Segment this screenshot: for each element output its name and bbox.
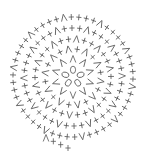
single-crochet-icon bbox=[71, 123, 76, 129]
single-crochet-icon bbox=[19, 107, 27, 115]
single-crochet-icon bbox=[12, 57, 19, 64]
increase-icon bbox=[58, 87, 67, 96]
single-crochet-icon bbox=[63, 122, 69, 129]
single-crochet-icon bbox=[121, 104, 129, 112]
single-crochet-icon bbox=[106, 121, 114, 129]
increase-icon bbox=[96, 19, 104, 28]
single-crochet-icon bbox=[100, 95, 108, 103]
single-crochet-icon bbox=[91, 29, 98, 37]
single-crochet-icon bbox=[43, 45, 51, 53]
increase-icon bbox=[49, 40, 57, 49]
increase-icon bbox=[122, 46, 131, 54]
single-crochet-icon bbox=[127, 91, 134, 98]
single-crochet-icon bbox=[10, 80, 16, 86]
increase-icon bbox=[94, 44, 103, 53]
single-crochet-icon bbox=[57, 132, 63, 139]
increase-icon bbox=[74, 101, 81, 109]
single-crochet-icon bbox=[112, 50, 120, 57]
single-crochet-icon bbox=[66, 36, 72, 43]
chain-loop-icon bbox=[73, 78, 81, 87]
single-crochet-icon bbox=[22, 36, 30, 44]
single-crochet-icon bbox=[113, 95, 121, 102]
increase-icon bbox=[79, 58, 88, 67]
increase-icon bbox=[86, 79, 94, 86]
single-crochet-icon bbox=[99, 112, 107, 120]
single-crochet-icon bbox=[90, 17, 97, 24]
increase-icon bbox=[26, 30, 35, 39]
increase-icon bbox=[88, 92, 97, 101]
single-crochet-icon bbox=[86, 131, 93, 138]
single-crochet-icon bbox=[58, 142, 63, 148]
increase-icon bbox=[97, 78, 105, 85]
single-crochet-icon bbox=[82, 98, 89, 106]
single-crochet-icon bbox=[35, 89, 43, 96]
increase-icon bbox=[41, 70, 49, 77]
single-crochet-icon bbox=[92, 116, 99, 124]
increase-icon bbox=[32, 82, 40, 89]
single-crochet-icon bbox=[97, 69, 104, 75]
single-crochet-icon bbox=[32, 75, 38, 80]
single-crochet-icon bbox=[44, 61, 52, 68]
increase-icon bbox=[73, 35, 79, 42]
single-crochet-icon bbox=[35, 108, 43, 116]
chain-loop-icon bbox=[76, 71, 84, 78]
single-crochet-icon bbox=[35, 123, 43, 131]
increase-icon bbox=[52, 79, 60, 86]
single-crochet-icon bbox=[69, 14, 74, 20]
increase-icon bbox=[29, 102, 38, 111]
single-crochet-icon bbox=[75, 111, 81, 118]
increase-icon bbox=[106, 65, 114, 72]
single-crochet-icon bbox=[66, 101, 72, 108]
increase-icon bbox=[53, 27, 61, 35]
single-crochet-icon bbox=[42, 79, 49, 85]
single-crochet-icon bbox=[124, 97, 132, 104]
single-crochet-icon bbox=[38, 51, 46, 59]
increase-icon bbox=[70, 56, 76, 63]
increase-icon bbox=[42, 126, 50, 135]
increase-icon bbox=[83, 26, 90, 34]
increase-icon bbox=[93, 60, 102, 68]
increase-icon bbox=[128, 83, 136, 90]
single-crochet-icon bbox=[11, 87, 18, 93]
single-crochet-icon bbox=[18, 43, 26, 51]
single-crochet-icon bbox=[46, 30, 53, 38]
single-crochet-icon bbox=[95, 101, 103, 109]
single-crochet-icon bbox=[104, 57, 112, 64]
single-crochet-icon bbox=[49, 130, 56, 137]
single-crochet-icon bbox=[39, 21, 47, 29]
single-crochet-icon bbox=[39, 96, 47, 104]
single-crochet-icon bbox=[48, 117, 55, 125]
increase-icon bbox=[44, 101, 53, 110]
single-crochet-icon bbox=[21, 83, 28, 89]
single-crochet-icon bbox=[65, 145, 70, 151]
single-crochet-icon bbox=[49, 93, 57, 101]
single-crochet-icon bbox=[103, 38, 111, 46]
chain-loop-icon bbox=[70, 66, 75, 73]
single-crochet-icon bbox=[72, 134, 77, 140]
single-crochet-icon bbox=[21, 67, 28, 73]
single-crochet-icon bbox=[24, 113, 32, 121]
increase-icon bbox=[88, 105, 96, 114]
single-crochet-icon bbox=[88, 40, 95, 48]
chain-loop-icon bbox=[61, 71, 69, 78]
increase-icon bbox=[118, 73, 125, 79]
single-crochet-icon bbox=[79, 122, 85, 129]
single-crochet-icon bbox=[41, 113, 49, 121]
single-crochet-icon bbox=[25, 52, 33, 59]
increase-icon bbox=[56, 98, 64, 107]
single-crochet-icon bbox=[89, 53, 97, 61]
increase-icon bbox=[34, 58, 43, 66]
single-crochet-icon bbox=[77, 25, 83, 32]
single-crochet-icon bbox=[23, 90, 30, 97]
single-crochet-icon bbox=[39, 34, 47, 42]
single-crochet-icon bbox=[13, 94, 20, 101]
increase-icon bbox=[79, 87, 88, 96]
single-crochet-icon bbox=[74, 46, 80, 53]
single-crochet-icon bbox=[97, 33, 105, 41]
single-crochet-icon bbox=[53, 16, 60, 23]
increase-icon bbox=[28, 45, 37, 54]
single-crochet-icon bbox=[118, 65, 125, 71]
increase-icon bbox=[52, 68, 60, 75]
increase-icon bbox=[65, 45, 72, 53]
single-crochet-icon bbox=[100, 125, 108, 133]
